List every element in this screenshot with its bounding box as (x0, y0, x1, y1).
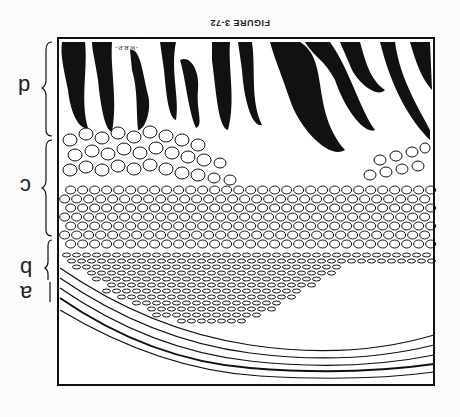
figure-page: FIGURE 3-72 (0, 0, 460, 417)
layer-label-c: c (20, 175, 31, 197)
layer-label-a: a (20, 282, 32, 304)
layer-braces (42, 42, 52, 302)
histology-illustration: -W.R.P.- (0, 0, 460, 417)
artist-signature: -W.R.P.- (115, 44, 138, 52)
layer-label-b: b (20, 257, 32, 279)
layer-label-d: d (18, 75, 30, 97)
